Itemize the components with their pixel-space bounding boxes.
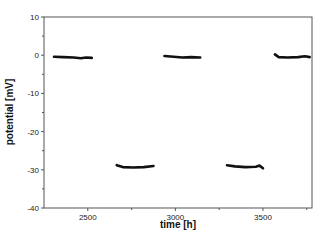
- data-segment: [117, 165, 154, 167]
- data-series: [54, 54, 310, 168]
- x-tick-label: 3500: [254, 213, 272, 222]
- y-tick-label: -10: [27, 89, 39, 98]
- data-segment: [54, 57, 92, 59]
- x-tick-label: 2500: [79, 213, 97, 222]
- x-axis-title: time [h]: [160, 219, 196, 230]
- data-segment: [275, 54, 310, 57]
- y-tick-label: 0: [35, 51, 40, 60]
- y-tick-label: -30: [27, 166, 39, 175]
- plot-border: [44, 17, 312, 208]
- y-tick-label: 10: [30, 13, 39, 22]
- plot-frame: [44, 17, 312, 208]
- y-tick-label: -20: [27, 128, 39, 137]
- y-axis-title: potential [mV]: [4, 79, 15, 146]
- chart: 100-10-20-30-40 250030003500 time [h] po…: [0, 0, 326, 248]
- y-axis: 100-10-20-30-40: [27, 13, 44, 213]
- y-tick-label: -40: [27, 204, 39, 213]
- data-segment: [165, 56, 201, 58]
- data-segment: [227, 165, 263, 168]
